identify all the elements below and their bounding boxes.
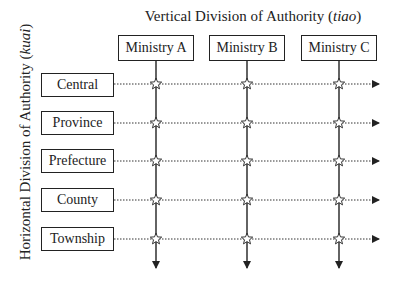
ministry-c-box: Ministry C [301,35,377,61]
level-prefecture-box: Prefecture [41,149,114,173]
ministry-a-box: Ministry A [118,35,194,61]
level-province-box: Province [41,111,114,135]
ministry-b-box: Ministry B [209,35,285,61]
level-township-box: Township [41,227,114,251]
level-central-box: Central [41,73,114,97]
level-county-box: County [41,188,114,212]
